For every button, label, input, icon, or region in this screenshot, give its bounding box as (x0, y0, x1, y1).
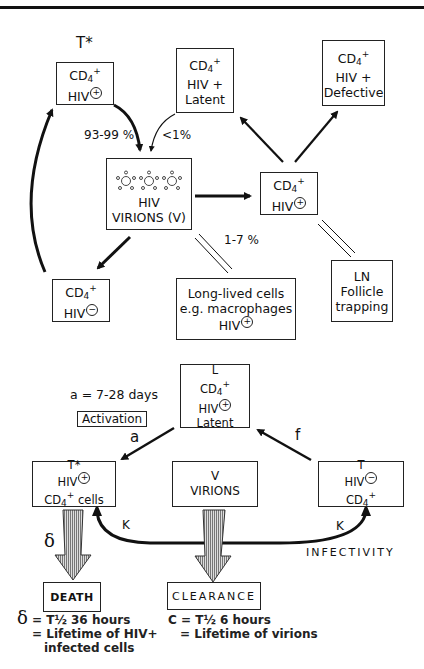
latent-cell-box-bottom: L CD4+ HIV+ Latent (180, 364, 250, 428)
plus-circle-icon: + (219, 399, 231, 411)
long-lived-cells-box: Long-lived cells e.g. macrophages HIV+ (176, 278, 296, 340)
infected-cell-box-top: CD4+ HIV+ (56, 62, 114, 105)
virions-box-bottom: V VIRIONS (172, 461, 258, 507)
infected-cells-box-bottom: T* HIV+ CD4+ cells (32, 461, 116, 507)
uninfected-cell-box-top: CD4+ HIV− (52, 279, 110, 322)
ln-follicle-box: LN Follicle trapping (331, 260, 393, 322)
hiv-virions-box: HIV VIRIONS (V) (106, 158, 192, 230)
clearance-note-line1: C = T½ 6 hours (168, 613, 271, 627)
defective-cell-box: CD4+ HIV + Defective (322, 40, 385, 106)
death-note-line2: = Lifetime of HIV+ (32, 627, 158, 641)
k-left-label: K (122, 518, 130, 532)
infectivity-label: INFECTIVITY (306, 546, 395, 559)
clearance-note-line2: = Lifetime of virions (180, 627, 318, 641)
minus-circle-icon: − (365, 472, 377, 484)
infected-cell-box-right: CD4+ HIV+ (260, 172, 318, 215)
plus-circle-icon: + (294, 197, 306, 209)
pct-latent-label: <1% (162, 128, 191, 142)
activation-label: Activation (77, 411, 147, 427)
delta-note-symbol: δ (17, 607, 28, 628)
pct-long-lived-label: 1-7 % (224, 233, 259, 247)
activation-days-label: a = 7-28 days (70, 387, 158, 402)
k-right-label: K (336, 519, 344, 533)
death-note-line3: infected cells (44, 641, 134, 655)
pct-main-label: 93-99 % (84, 128, 134, 142)
plus-circle-icon: + (78, 472, 90, 484)
t-star-label: T* (76, 34, 93, 52)
delta-label: δ (44, 530, 55, 551)
latent-cell-box-top: CD4+ HIV + Latent (176, 48, 234, 113)
death-box: DEATH (43, 582, 101, 612)
death-note-line1: = T½ 36 hours (32, 613, 130, 627)
rate-f-label: f (295, 426, 300, 444)
virion-icons (114, 170, 184, 192)
uninfected-cell-box-bottom: T HIV− CD4+ (318, 461, 404, 507)
plus-circle-icon: + (241, 316, 253, 328)
clearance-box: CLEARANCE (167, 582, 261, 610)
minus-circle-icon: − (86, 304, 98, 316)
rate-a-label: a (130, 428, 139, 446)
plus-circle-icon: + (90, 87, 102, 99)
